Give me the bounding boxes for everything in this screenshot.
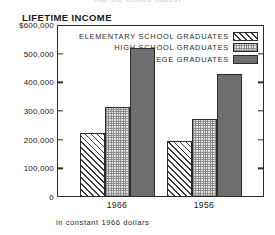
legend-swatch-college	[233, 55, 258, 64]
y-axis-tick-label: 300,000	[24, 107, 54, 116]
y-axis-tick-label: 400,000	[24, 78, 54, 87]
bar-highschool-1956	[192, 119, 217, 197]
y-axis-tick-mark	[57, 110, 63, 111]
y-axis-tick-mark-right	[258, 110, 264, 111]
legend-item: ELEMENTARY SCHOOL GRADUATES	[100, 31, 258, 41]
y-axis-tick-label: 100,000	[24, 164, 54, 173]
top-cropped-caption: (for the United States)	[0, 0, 275, 2]
chart-footnote: in constant 1966 dollars	[56, 218, 149, 227]
legend-item: HIGH SCHOOL GRADUATES	[100, 43, 258, 53]
y-axis-tick-mark	[57, 82, 63, 83]
y-axis-tick-mark	[57, 139, 63, 140]
bar-college-1956	[217, 74, 242, 197]
legend-item: COLLEGE GRADUATES	[100, 54, 258, 64]
y-axis-tick-mark	[57, 53, 63, 54]
legend-item-label: ELEMENTARY SCHOOL GRADUATES	[79, 32, 229, 41]
y-axis-tick-label: 200,000	[24, 135, 54, 144]
y-axis-tick-mark-right	[258, 139, 264, 140]
legend-swatch-highschool	[233, 43, 258, 52]
y-axis-tick-mark-right	[258, 53, 264, 54]
y-axis-tick-mark-right	[258, 168, 264, 169]
y-axis-tick-label: $600,000	[19, 21, 54, 30]
x-axis-group-label: 1956	[194, 200, 215, 210]
y-axis-tick-mark	[57, 168, 63, 169]
y-axis-tick-label: 500,000	[24, 49, 54, 58]
y-axis-tick-mark-right	[258, 82, 264, 83]
y-axis-tick-label: 0	[49, 193, 54, 202]
legend-swatch-elementary	[233, 32, 258, 41]
bar-highschool-1966	[105, 107, 130, 197]
bar-elementary-1956	[167, 141, 192, 197]
bar-college-1966	[130, 48, 155, 197]
chart-legend: ELEMENTARY SCHOOL GRADUATESHIGH SCHOOL G…	[100, 31, 258, 66]
x-axis-group-label: 1966	[107, 200, 128, 210]
bar-elementary-1966	[80, 133, 105, 198]
